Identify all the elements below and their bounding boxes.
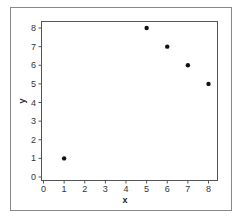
x-tick-label: 0: [41, 184, 46, 194]
x-tick-label: 3: [103, 184, 108, 194]
scatter-chart: 012345678 012345678 x y: [0, 0, 239, 218]
y-tick-label: 8: [31, 23, 36, 33]
x-tick-label: 2: [82, 184, 87, 194]
x-axis-title: x: [122, 195, 127, 205]
x-tick-label: 4: [123, 184, 128, 194]
y-tick-label: 4: [31, 98, 36, 108]
data-point: [165, 44, 169, 48]
y-tick-label: 6: [31, 60, 36, 70]
x-tick-label: 7: [185, 184, 190, 194]
data-point: [206, 82, 210, 86]
x-tick-label: 6: [165, 184, 170, 194]
y-tick-label: 7: [31, 42, 36, 52]
y-tick-label: 1: [31, 153, 36, 163]
y-tick-label: 0: [31, 172, 36, 182]
data-point: [144, 26, 148, 30]
data-point: [62, 156, 66, 160]
y-tick-label: 2: [31, 135, 36, 145]
data-point: [186, 63, 190, 67]
x-tick-label: 8: [206, 184, 211, 194]
y-tick-label: 3: [31, 116, 36, 126]
y-tick-label: 5: [31, 79, 36, 89]
x-tick-label: 5: [144, 184, 149, 194]
y-axis-title: y: [17, 98, 27, 103]
plot-area: [42, 22, 218, 181]
x-tick-label: 1: [62, 184, 67, 194]
